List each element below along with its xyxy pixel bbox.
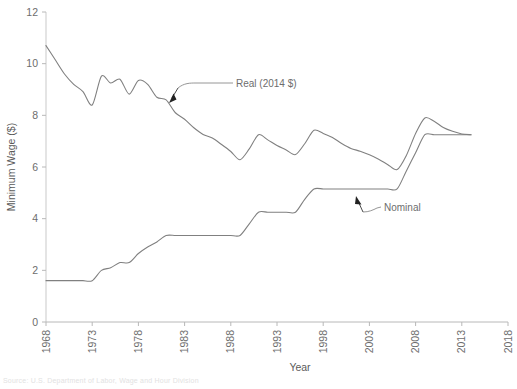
x-tick-label: 1968 (40, 330, 52, 354)
x-axis-title: Year (289, 361, 311, 373)
x-tick-label: 1993 (271, 330, 283, 354)
x-tick-label: 2008 (409, 330, 421, 354)
x-tick-label: 2013 (455, 330, 467, 354)
annotation-label-real: Real (2014 $) (236, 78, 297, 89)
y-tick-label: 10 (26, 57, 38, 69)
annotation-label-nominal: Nominal (384, 202, 421, 213)
x-tick-label: 1978 (132, 330, 144, 354)
x-tick-label: 1973 (86, 330, 98, 354)
x-tick-label: 1983 (178, 330, 190, 354)
y-tick-label: 8 (32, 109, 38, 121)
y-axis-title: Minimum Wage ($) (5, 123, 17, 211)
x-tick-label: 1998 (317, 330, 329, 354)
x-tick-label: 2003 (363, 330, 375, 354)
x-tick-label: 2018 (502, 330, 514, 354)
y-tick-label: 6 (32, 161, 38, 173)
chart-footnote: Source: U.S. Department of Labor, Wage a… (3, 377, 199, 384)
minimum-wage-chart: 024681012 196819731978198319881993199820… (0, 0, 517, 389)
y-tick-label: 0 (32, 316, 38, 328)
y-tick-label: 2 (32, 264, 38, 276)
chart-svg: 024681012 196819731978198319881993199820… (0, 0, 517, 389)
y-tick-label: 12 (26, 6, 38, 18)
chart-background (0, 0, 517, 389)
y-tick-label: 4 (32, 212, 38, 224)
x-tick-label: 1988 (224, 330, 236, 354)
